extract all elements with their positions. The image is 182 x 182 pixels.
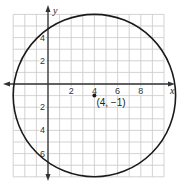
x-axis-left-arrow-icon [3,82,10,87]
y-axis-down-arrow-icon [46,174,51,181]
circle-graph: xy 246842246 (4, −1) [0,0,182,182]
center-point-label: (4, −1) [96,97,125,108]
y-tick-label: 2 [40,102,45,112]
y-tick-label: 2 [40,56,45,66]
y-axis-up-arrow-icon [46,5,51,12]
x-axis-label: x [169,85,175,96]
x-tick-label: 8 [138,86,143,96]
x-tick-label: 2 [69,86,74,96]
y-tick-label: 4 [40,125,45,135]
center-point: (4, −1) [92,94,125,108]
x-tick-label: 6 [115,86,120,96]
y-axis-label: y [52,5,58,16]
